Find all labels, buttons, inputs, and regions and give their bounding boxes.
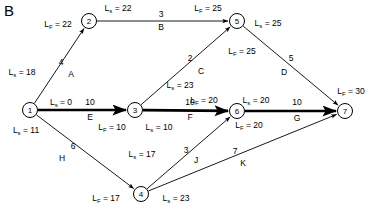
edge-name-a: A — [68, 70, 74, 79]
time-label-n1-ls: Ls = 0 — [50, 98, 72, 109]
time-label-n5-ls: Ls = 25 — [255, 19, 282, 30]
time-label-n2-ls: Ls = 22 — [105, 4, 132, 15]
edge-duration-b: 3 — [159, 10, 164, 19]
edge-name-b: B — [158, 23, 164, 32]
node-5[interactable]: 5 — [230, 14, 245, 29]
time-label-n1-ls-alt: Ls = 11 — [13, 126, 39, 137]
diagram-canvas: B 1234567 Ls = 0Ls = 11Ls = 18LF = 22Ls … — [0, 0, 377, 213]
node-4[interactable]: 4 — [134, 187, 149, 202]
node-number-2: 2 — [87, 17, 92, 26]
edge-name-j: J — [194, 156, 198, 165]
node-1[interactable]: 1 — [23, 103, 38, 118]
time-label-n5-lf: LF = 25 — [194, 4, 222, 15]
time-label-n4-ls2: Ls = 17 — [129, 150, 156, 161]
edge-name-f: F — [187, 113, 192, 122]
node-number-5: 5 — [235, 17, 240, 26]
edge-duration-e: 10 — [85, 98, 94, 107]
node-number-6: 6 — [235, 107, 240, 116]
time-label-n7-lf: LF = 30 — [337, 87, 365, 98]
time-label-n4-lf: LF = 17 — [92, 194, 120, 205]
edge-f — [143, 110, 228, 111]
node-number-4: 4 — [139, 190, 144, 199]
edge-duration-f: 10 — [185, 98, 194, 107]
time-label-n3-ls: Ls = 10 — [146, 123, 173, 134]
node-number-7: 7 — [343, 107, 348, 116]
edge-name-k: K — [240, 159, 246, 168]
edge-duration-h: 6 — [71, 142, 76, 151]
edge-d — [243, 26, 338, 105]
edge-name-h: H — [59, 154, 65, 163]
node-2[interactable]: 2 — [82, 14, 97, 29]
time-label-n3-ls2: Ls = 23 — [167, 81, 194, 92]
time-label-n2-lf: LF = 22 — [44, 20, 72, 31]
edge-duration-k: 7 — [233, 147, 238, 156]
node-number-1: 1 — [28, 106, 33, 115]
edge-name-g: G — [294, 114, 301, 123]
node-number-3: 3 — [133, 106, 138, 115]
edge-name-d: D — [281, 68, 287, 77]
node-3[interactable]: 3 — [128, 103, 143, 118]
time-label-n3-lf: LF = 10 — [98, 123, 126, 134]
edge-duration-d: 5 — [289, 54, 294, 63]
edge-duration-c: 2 — [188, 54, 193, 63]
edge-duration-j: 3 — [184, 146, 189, 155]
time-label-n6-ls: Ls = 20 — [243, 96, 270, 107]
edge-c — [141, 27, 230, 105]
edge-name-c: C — [198, 67, 204, 76]
edge-name-e: E — [87, 113, 93, 122]
time-label-n5-lf2: LF = 25 — [228, 47, 256, 58]
node-7[interactable]: 7 — [338, 104, 353, 119]
time-label-n6-lf2: LF = 20 — [235, 121, 263, 132]
edge-duration-a: 4 — [59, 58, 64, 67]
time-label-n4-ls: Ls = 23 — [163, 194, 190, 205]
edge-duration-g: 10 — [292, 98, 301, 107]
time-label-n1-lf: Ls = 18 — [9, 68, 36, 79]
